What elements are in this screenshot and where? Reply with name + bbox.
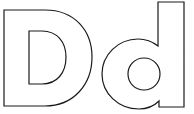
letter-artwork: D d [0, 0, 194, 114]
letters-outline-svg [0, 0, 194, 114]
uppercase-d-outline [4, 10, 92, 106]
lowercase-d-outline [102, 2, 184, 109]
